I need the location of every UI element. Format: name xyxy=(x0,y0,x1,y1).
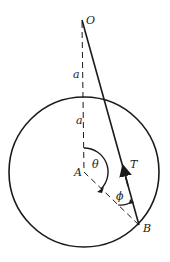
label-a-lower: a xyxy=(76,114,83,127)
label-a-upper: a xyxy=(73,68,80,81)
label-T: T xyxy=(130,158,139,171)
label-B: B xyxy=(142,222,151,235)
label-O: O xyxy=(86,14,95,27)
diagram-canvas: O a a A θ T ϕ B xyxy=(0,0,170,262)
tension-arrow xyxy=(124,170,128,186)
string-line-OB xyxy=(82,20,139,225)
label-phi: ϕ xyxy=(116,190,124,203)
label-theta: θ xyxy=(92,158,99,171)
label-A: A xyxy=(73,166,82,179)
dashed-line-AB xyxy=(84,172,139,225)
